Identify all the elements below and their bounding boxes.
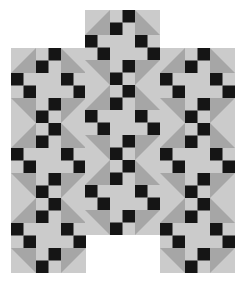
black-square (74, 236, 87, 249)
black-square (185, 136, 198, 149)
black-square (123, 85, 136, 98)
black-square (160, 223, 173, 236)
black-square (123, 210, 136, 223)
black-square (11, 148, 24, 161)
black-square (24, 161, 37, 174)
black-square (110, 223, 123, 236)
black-square (173, 86, 186, 99)
black-square (11, 73, 24, 86)
black-square (148, 48, 161, 61)
black-square (36, 261, 49, 274)
black-square (148, 123, 161, 136)
black-square (160, 73, 173, 86)
black-square (210, 148, 223, 161)
black-square (160, 148, 173, 161)
black-square (185, 61, 198, 74)
black-square (49, 98, 62, 111)
black-square (61, 148, 74, 161)
black-square (110, 173, 123, 186)
black-square (210, 223, 223, 236)
black-square (123, 160, 136, 173)
black-square (49, 123, 62, 136)
black-square (135, 110, 148, 123)
black-square (36, 186, 49, 199)
black-square (98, 198, 111, 211)
black-square (223, 161, 236, 174)
black-square (49, 198, 62, 211)
black-square (85, 185, 98, 198)
black-square (173, 236, 186, 249)
black-square (61, 223, 74, 236)
black-square (135, 35, 148, 48)
black-square (123, 60, 136, 73)
black-square (173, 161, 186, 174)
black-square (198, 198, 211, 211)
black-square (36, 111, 49, 124)
black-square (185, 186, 198, 199)
black-square (49, 248, 62, 261)
black-square (110, 98, 123, 111)
black-square (223, 86, 236, 99)
middle-strip (85, 10, 160, 235)
black-square (85, 110, 98, 123)
black-square (98, 123, 111, 136)
black-square (185, 211, 198, 224)
black-square (85, 35, 98, 48)
black-square (198, 248, 211, 261)
black-square (110, 73, 123, 86)
black-square (223, 236, 236, 249)
right-strip (160, 48, 235, 273)
black-square (11, 223, 24, 236)
black-square (198, 173, 211, 186)
black-square (36, 136, 49, 149)
black-square (185, 111, 198, 124)
black-square (148, 198, 161, 211)
left-strip (11, 48, 86, 273)
black-square (135, 185, 148, 198)
black-square (198, 123, 211, 136)
black-square (185, 261, 198, 274)
black-square (61, 73, 74, 86)
black-square (36, 61, 49, 74)
black-square (123, 10, 136, 23)
black-square (110, 23, 123, 36)
black-square (98, 48, 111, 61)
black-square (49, 48, 62, 61)
black-square (36, 211, 49, 224)
black-square (198, 48, 211, 61)
black-square (24, 86, 37, 99)
black-square (198, 98, 211, 111)
black-square (210, 73, 223, 86)
black-square (24, 236, 37, 249)
black-square (49, 173, 62, 186)
black-square (123, 135, 136, 148)
black-square (110, 148, 123, 161)
